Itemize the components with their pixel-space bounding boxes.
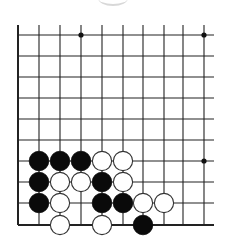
black-stone bbox=[71, 151, 91, 171]
black-stone bbox=[133, 215, 153, 235]
white-stone bbox=[113, 172, 132, 191]
black-stone bbox=[29, 193, 49, 213]
go-board bbox=[0, 0, 230, 252]
white-stone bbox=[50, 215, 69, 234]
star-point bbox=[78, 32, 83, 37]
black-stone bbox=[92, 172, 112, 192]
star-point bbox=[201, 32, 206, 37]
white-stone bbox=[133, 193, 152, 212]
white-stone bbox=[50, 193, 69, 212]
star-point bbox=[201, 158, 206, 163]
black-stone bbox=[113, 193, 133, 213]
white-stone bbox=[71, 172, 90, 191]
black-stone bbox=[29, 172, 49, 192]
white-stone bbox=[154, 193, 173, 212]
black-stone bbox=[92, 193, 112, 213]
white-stone bbox=[92, 215, 111, 234]
white-stone bbox=[92, 151, 111, 170]
black-stone bbox=[29, 151, 49, 171]
white-stone bbox=[113, 151, 132, 170]
black-stone bbox=[50, 151, 70, 171]
white-stone bbox=[50, 172, 69, 191]
